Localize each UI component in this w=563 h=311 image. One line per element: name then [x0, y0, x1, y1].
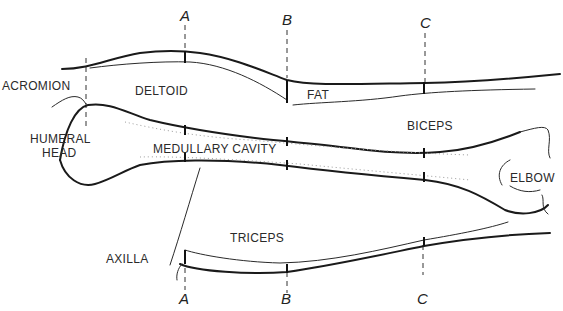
elbow-outline-1: [499, 160, 510, 185]
section-marker-b-bottom: B: [281, 290, 291, 307]
skin-outline-top: [62, 51, 560, 84]
deltoid-boundary: [90, 62, 287, 100]
upper-arm-cross-section-diagram: A B C A B C ACROMION DELTOID FAT BICEPS …: [0, 0, 563, 311]
section-marker-b-top: B: [282, 11, 292, 28]
elbow-outline-2: [520, 127, 550, 158]
acromion-squiggle: [52, 97, 86, 107]
fat-layer-boundary: [293, 89, 535, 105]
label-deltoid: DELTOID: [135, 84, 188, 98]
label-elbow: ELBOW: [510, 171, 555, 185]
section-marker-a-bottom: A: [178, 290, 189, 307]
label-humeral-head-line1: HUMERAL: [30, 132, 91, 146]
label-humeral-head-line2: HEAD: [42, 146, 77, 160]
label-acromion: ACROMION: [2, 79, 70, 93]
label-biceps: BICEPS: [407, 119, 453, 133]
section-marker-c-top: C: [420, 14, 431, 31]
elbow-outline-4: [542, 195, 548, 214]
label-medullary-cavity: MEDULLARY CAVITY: [153, 142, 277, 156]
label-fat: FAT: [307, 88, 329, 102]
section-marker-a-top: A: [179, 7, 190, 24]
label-triceps: TRICEPS: [230, 231, 284, 245]
axilla-fold: [177, 264, 182, 280]
label-axilla: AXILLA: [106, 252, 149, 266]
humerus-bottom-edge: [60, 160, 548, 213]
elbow-outline-3: [510, 186, 540, 192]
section-marker-c-bottom: C: [417, 290, 428, 307]
